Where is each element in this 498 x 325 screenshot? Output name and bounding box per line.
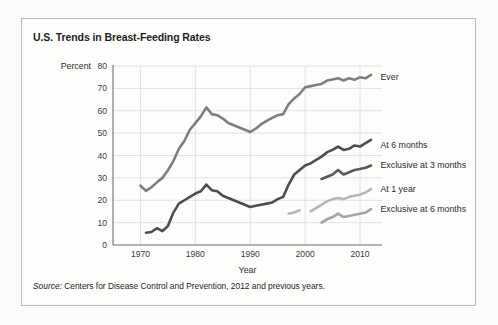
chart-canvas: 0102030405060708019701980199020002010Per… bbox=[0, 0, 498, 325]
y-axis-title: Percent bbox=[61, 61, 92, 71]
series-label: At 6 months bbox=[381, 140, 429, 150]
series-label: Ever bbox=[381, 72, 399, 82]
x-axis-tick-label: 2000 bbox=[296, 249, 315, 259]
source-label: Source: bbox=[33, 281, 62, 291]
x-axis-tick-label: 1990 bbox=[241, 249, 260, 259]
y-axis-tick-label: 50 bbox=[97, 128, 107, 138]
y-axis-tick-label: 0 bbox=[102, 240, 107, 250]
series-line bbox=[322, 166, 371, 179]
x-axis-tick-label: 1980 bbox=[186, 249, 205, 259]
y-axis-tick-label: 30 bbox=[97, 173, 107, 183]
x-axis-tick-label: 2010 bbox=[350, 249, 369, 259]
series-label: Exclusive at 6 months bbox=[381, 204, 467, 214]
series-line bbox=[146, 140, 371, 233]
series-line bbox=[322, 209, 371, 222]
series-label: At 1 year bbox=[381, 184, 416, 194]
series-label: Exclusive at 3 months bbox=[381, 160, 467, 170]
y-axis-tick-label: 20 bbox=[97, 195, 107, 205]
series-line bbox=[289, 210, 300, 213]
x-axis-title: Year bbox=[239, 265, 257, 275]
source-note: Source: Centers for Disease Control and … bbox=[33, 281, 325, 291]
y-axis-tick-label: 70 bbox=[97, 83, 107, 93]
y-axis-tick-label: 10 bbox=[97, 218, 107, 228]
y-axis-tick-label: 80 bbox=[97, 61, 107, 71]
y-axis-tick-label: 40 bbox=[97, 151, 107, 161]
source-body: Centers for Disease Control and Preventi… bbox=[62, 281, 325, 291]
screenshot-page: U.S. Trends in Breast-Feeding Rates 0102… bbox=[0, 0, 498, 325]
y-axis-tick-label: 60 bbox=[97, 106, 107, 116]
x-axis-tick-label: 1970 bbox=[131, 249, 150, 259]
